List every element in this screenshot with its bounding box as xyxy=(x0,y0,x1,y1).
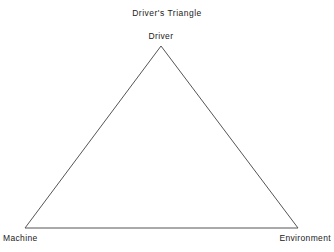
vertex-label-environment: Environment xyxy=(279,234,331,243)
diagram-canvas: Driver's Triangle Driver Machine Environ… xyxy=(0,0,334,252)
vertex-label-machine: Machine xyxy=(3,234,38,243)
vertex-label-driver: Driver xyxy=(0,32,322,41)
triangle-outline xyxy=(25,46,298,228)
